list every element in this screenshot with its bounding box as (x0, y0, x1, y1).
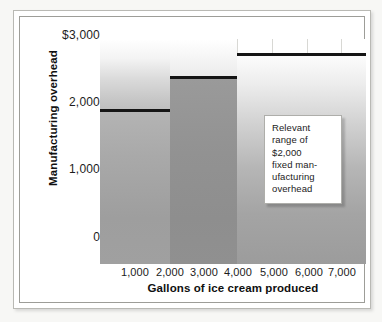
callout-line-1: Relevant (272, 122, 336, 134)
figure-inner-frame: $3,000 2,000 1,000 0 Manufacturing overh… (19, 16, 365, 303)
y-axis-title: Manufacturing overhead (47, 23, 59, 213)
step-region-2 (170, 78, 237, 264)
cost-line-step-1 (100, 109, 170, 112)
x-tick-3000: 3,000 (190, 266, 218, 278)
relevant-range-callout: Relevant range of $2,000 fixed man- ufac… (264, 115, 342, 204)
x-tick-7000: 7,000 (328, 266, 356, 278)
step-region-1-upper-shade (100, 39, 170, 110)
x-axis-ticks: 1,000 2,000 3,000 4,000 5,000 6,000 7,00… (100, 266, 366, 282)
chart-page: $3,000 2,000 1,000 0 Manufacturing overh… (0, 0, 382, 322)
x-tick-1000: 1,000 (121, 266, 149, 278)
step-region-2-upper-shade (170, 39, 237, 78)
plot-area: Relevant range of $2,000 fixed man- ufac… (100, 39, 366, 264)
x-tick-5000: 5,000 (260, 266, 288, 278)
x-tick-2000: 2,000 (156, 266, 184, 278)
cost-line-step-2 (170, 76, 237, 79)
step-region-1 (100, 110, 170, 264)
y-axis-ticks: $3,000 2,000 1,000 0 (30, 17, 100, 302)
x-tick-4000: 4,000 (224, 266, 252, 278)
callout-line-3: $2,000 (272, 147, 336, 159)
x-axis-title: Gallons of ice cream produced (100, 282, 366, 294)
callout-line-4: fixed man- (272, 159, 336, 171)
callout-line-2: range of (272, 134, 336, 146)
cost-line-step-3 (237, 53, 366, 56)
x-tick-6000: 6,000 (295, 266, 323, 278)
y-tick-0: 0 (38, 230, 100, 244)
figure-outer-frame: $3,000 2,000 1,000 0 Manufacturing overh… (13, 10, 371, 309)
callout-line-6: overhead (272, 183, 336, 195)
callout-line-5: ufacturing (272, 171, 336, 183)
